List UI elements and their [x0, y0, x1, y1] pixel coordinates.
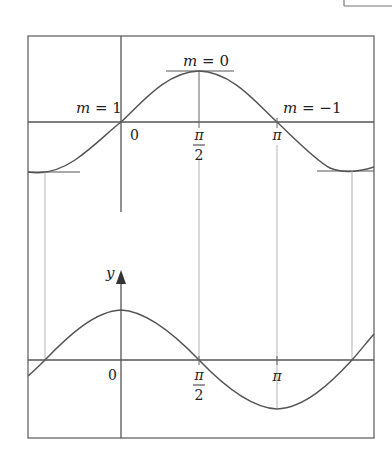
bottom-graph: y 0 π 2 π	[28, 264, 374, 438]
label-origin-bottom: 0	[108, 367, 117, 383]
y-axis-arrow-icon	[116, 270, 126, 284]
label-m1: m = 1	[76, 99, 122, 117]
label-origin-top: 0	[130, 127, 139, 143]
top-graph: m = 0 m = 1 m = −1 0 π 2 π	[28, 36, 374, 212]
label-m0: m = 0	[183, 52, 229, 70]
label-pi-half-den-bottom: 2	[195, 387, 204, 403]
label-pi-half-num-bottom: π	[193, 367, 204, 383]
label-pi-half-num: π	[193, 127, 204, 143]
label-y-axis: y	[105, 264, 115, 282]
label-pi-top: π	[271, 127, 282, 143]
derivative-diagram: m = 0 m = 1 m = −1 0 π 2 π y 0 π 2 π	[0, 0, 392, 469]
label-pi-bottom: π	[271, 368, 282, 384]
label-m-neg1: m = −1	[283, 99, 341, 117]
